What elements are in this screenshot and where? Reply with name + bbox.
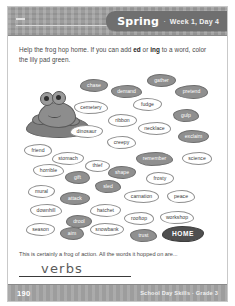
book-credit: School Day Skills · Grade 3 xyxy=(140,290,218,296)
week-day-label: Week 1, Day 4 xyxy=(170,18,219,25)
season-banner: Spring · Week 1, Day 4 xyxy=(106,11,227,31)
banner-separator: · xyxy=(163,17,166,26)
page-header: Spring · Week 1, Day 4 xyxy=(8,7,227,36)
lily-pad-word[interactable]: snowbank xyxy=(90,223,124,236)
frog-mouth xyxy=(48,112,61,118)
lily-pad-word[interactable]: peace xyxy=(167,190,195,203)
page-number: 190 xyxy=(17,289,30,298)
lily-pad-home[interactable]: HOME xyxy=(162,226,204,242)
lily-pad-label: rooftop xyxy=(131,216,147,221)
lily-pad-word[interactable]: frosty xyxy=(146,172,174,185)
lily-pad-label: downhill xyxy=(37,208,56,213)
lily-pad-label: stomach xyxy=(58,156,78,161)
lily-pad-word[interactable]: carnation xyxy=(124,190,159,203)
instructions: Help the frog hop home. If you can add e… xyxy=(19,45,216,65)
lily-pad-word[interactable]: aim xyxy=(60,227,84,240)
lily-pad-label: attack xyxy=(68,196,82,201)
answer-section: This is certainly a frog of action. All … xyxy=(19,250,216,277)
lily-pad-word[interactable]: stomach xyxy=(52,152,84,165)
lily-pad-label: workshop xyxy=(166,215,188,220)
lily-pad-label: shape xyxy=(115,170,129,175)
worksheet-page: Spring · Week 1, Day 4 Help the frog hop… xyxy=(0,0,235,306)
lily-pad-word[interactable]: exclaim xyxy=(178,130,209,143)
name-dash xyxy=(16,18,25,20)
lily-pad-label: horrible xyxy=(40,168,57,173)
lily-pad-label: fudge xyxy=(141,102,154,107)
lily-pad-label: necklace xyxy=(144,126,165,131)
lily-pad-word[interactable]: demand xyxy=(111,85,142,98)
lily-pad-label: cemetery xyxy=(80,105,101,110)
lily-pad-label: drool xyxy=(73,219,85,224)
lily-pad-label: season xyxy=(32,227,49,232)
lily-pad-word[interactable]: cemetery xyxy=(74,101,108,114)
lily-pad-label: sled xyxy=(103,184,113,189)
answer-handwritten: verbs xyxy=(41,262,83,275)
lily-pad-label: peace xyxy=(174,194,188,199)
lily-pad-word[interactable]: trust xyxy=(130,229,157,242)
lily-pad-label: friend xyxy=(31,148,44,153)
lily-pad-label: creepy xyxy=(114,140,130,145)
lily-pad-label: snowbank xyxy=(95,227,118,232)
worksheet-sheet: Spring · Week 1, Day 4 Help the frog hop… xyxy=(7,6,228,302)
lily-pad-word[interactable]: attack xyxy=(60,192,90,205)
lily-pad-word[interactable]: drool xyxy=(66,215,92,228)
lily-pad-label: gift xyxy=(74,175,81,180)
season-label: Spring xyxy=(117,15,159,28)
lily-pad-pond: chasedemandgatherpretendcemeteryfudgerib… xyxy=(12,68,223,246)
lily-pad-word[interactable]: pretend xyxy=(175,85,208,99)
lily-pad-label: thief xyxy=(93,163,103,168)
lily-pad-label: aim xyxy=(68,231,76,236)
lily-pad-word[interactable]: downhill xyxy=(30,204,62,217)
lily-pad-word[interactable]: hatchet xyxy=(90,204,121,217)
lily-pad-word[interactable]: horrible xyxy=(33,164,64,177)
lily-pad-label: HOME xyxy=(172,230,194,237)
page-footer: 190 School Day Skills · Grade 3 xyxy=(8,284,227,301)
lily-pad-word[interactable]: season xyxy=(26,223,55,236)
lily-pad-label: remember xyxy=(143,156,167,161)
lily-pad-word[interactable]: mural xyxy=(28,185,55,198)
lily-pad-label: demand xyxy=(117,89,136,94)
suffix-ing: ing xyxy=(150,46,160,53)
lily-pad-word[interactable]: gulp xyxy=(173,109,199,122)
lily-pad-word[interactable]: remember xyxy=(136,152,173,166)
lily-pad-word[interactable]: creepy xyxy=(107,136,136,149)
lily-pad-label: pretend xyxy=(183,89,201,94)
lily-pad-word[interactable]: fudge xyxy=(133,98,162,111)
lily-pad-word[interactable]: rooftop xyxy=(124,212,154,225)
lily-pad-label: carnation xyxy=(131,194,152,199)
lily-pad-label: frosty xyxy=(154,176,167,181)
lily-pad-word[interactable]: gift xyxy=(65,171,90,184)
lily-pad-label: gather xyxy=(154,78,169,83)
lily-pad-label: exclaim xyxy=(185,134,203,139)
instructions-mid: or xyxy=(141,46,150,53)
lily-pad-word[interactable]: thief xyxy=(85,160,110,172)
lily-pad-label: gulp xyxy=(181,113,191,118)
lily-pad-label: chase xyxy=(87,83,101,88)
lily-pad-label: ribbon xyxy=(115,118,129,123)
lily-pad-word[interactable]: gather xyxy=(147,74,176,87)
frog-right-eye xyxy=(52,91,66,105)
lily-pad-word[interactable]: dinosaur xyxy=(70,125,103,138)
lily-pad-label: science xyxy=(188,156,206,161)
lily-pad-word[interactable]: necklace xyxy=(138,122,171,135)
lily-pad-word[interactable]: shape xyxy=(108,166,136,179)
instructions-part1: Help the frog hop home. If you can add xyxy=(19,46,133,53)
suffix-ed: ed xyxy=(133,46,141,53)
lily-pad-word[interactable]: friend xyxy=(24,144,52,157)
lily-pad-label: hatchet xyxy=(97,208,114,213)
lily-pad-label: mural xyxy=(35,189,48,194)
answer-question: This is certainly a frog of action. All … xyxy=(19,250,216,258)
answer-write-line[interactable]: verbs xyxy=(19,261,131,277)
lily-pad-word[interactable]: chase xyxy=(80,79,108,92)
lily-pad-word[interactable]: ribbon xyxy=(108,114,137,127)
lily-pad-word[interactable]: sled xyxy=(95,180,121,193)
lily-pad-label: dinosaur xyxy=(77,129,97,134)
lily-pad-label: trust xyxy=(138,233,148,238)
lily-pad-word[interactable]: science xyxy=(182,152,212,165)
lily-pad-word[interactable]: workshop xyxy=(160,211,194,224)
